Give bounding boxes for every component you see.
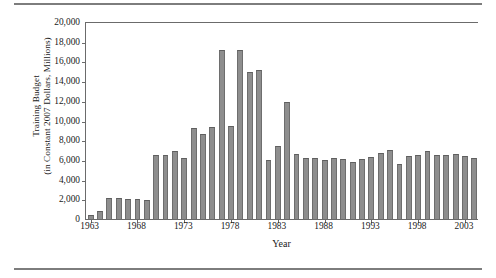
bar [350, 162, 356, 219]
bar [312, 158, 318, 219]
y-tick-mark [82, 62, 86, 63]
bar [443, 155, 449, 219]
bar [237, 50, 243, 219]
bar [209, 127, 215, 219]
bar [191, 128, 197, 219]
bar [172, 151, 178, 219]
y-tick-label: 8,000 [59, 135, 80, 145]
y-tick-label: 6,000 [59, 155, 80, 165]
bar [303, 158, 309, 219]
bar [294, 154, 300, 219]
y-tick-label: 4,000 [59, 175, 80, 185]
y-tick-mark [82, 102, 86, 103]
y-tick-label: 2,000 [59, 194, 80, 204]
bar [340, 159, 346, 219]
x-tick-label: 1988 [314, 221, 333, 231]
x-tick-label: 1973 [174, 221, 193, 231]
x-tick-label: 1963 [80, 221, 99, 231]
bar [144, 200, 150, 219]
bar [406, 156, 412, 219]
bar [359, 159, 365, 219]
bar [219, 50, 225, 219]
x-axis-title: Year [85, 238, 478, 249]
y-tick-mark [82, 122, 86, 123]
bar [397, 164, 403, 219]
bar [471, 158, 477, 219]
x-axis-line [85, 219, 478, 220]
bar [462, 156, 468, 219]
bar [106, 198, 112, 219]
bar [153, 155, 159, 219]
y-tick-label: 14,000 [54, 76, 80, 86]
bar [228, 126, 234, 219]
bar [453, 154, 459, 219]
bar [425, 151, 431, 219]
bar [415, 155, 421, 219]
y-tick-label: 0 [75, 214, 80, 224]
bar [256, 70, 262, 219]
bar [181, 158, 187, 219]
bar [135, 199, 141, 219]
y-tick-label: 20,000 [54, 17, 80, 27]
figure: Training Budget (in Constant 2007 Dollar… [0, 0, 496, 278]
y-tick-label: 12,000 [54, 96, 80, 106]
bar [284, 102, 290, 219]
y-tick-mark [82, 82, 86, 83]
y-tick-mark [82, 200, 86, 201]
y-axis-tick-labels: 02,0004,0006,0008,00010,00012,00014,0001… [36, 16, 84, 226]
bar [331, 158, 337, 219]
bottom-rule [14, 268, 482, 270]
y-tick-label: 18,000 [54, 37, 80, 47]
x-tick-label: 1998 [408, 221, 427, 231]
x-axis-tick-labels: 196319681973197819831988199319982003 [85, 221, 478, 237]
bar [125, 199, 131, 219]
bar [266, 160, 272, 219]
x-tick-label: 1993 [361, 221, 380, 231]
bar [434, 155, 440, 219]
bar [378, 153, 384, 219]
bar [387, 150, 393, 219]
bar [116, 198, 122, 219]
y-tick-label: 16,000 [54, 56, 80, 66]
bar [322, 160, 328, 219]
y-tick-label: 10,000 [54, 116, 80, 126]
bar [275, 146, 281, 219]
bar [368, 157, 374, 219]
x-tick-label: 1968 [127, 221, 146, 231]
bar [200, 134, 206, 219]
bar [163, 155, 169, 219]
top-rule [14, 3, 482, 5]
x-tick-label: 2003 [455, 221, 474, 231]
y-tick-mark [82, 141, 86, 142]
y-tick-mark [82, 161, 86, 162]
bar [97, 211, 103, 219]
bar [247, 72, 253, 219]
plot-area [85, 22, 478, 219]
y-tick-mark [82, 181, 86, 182]
x-tick-label: 1983 [267, 221, 286, 231]
y-tick-mark [82, 43, 86, 44]
x-tick-label: 1978 [221, 221, 240, 231]
